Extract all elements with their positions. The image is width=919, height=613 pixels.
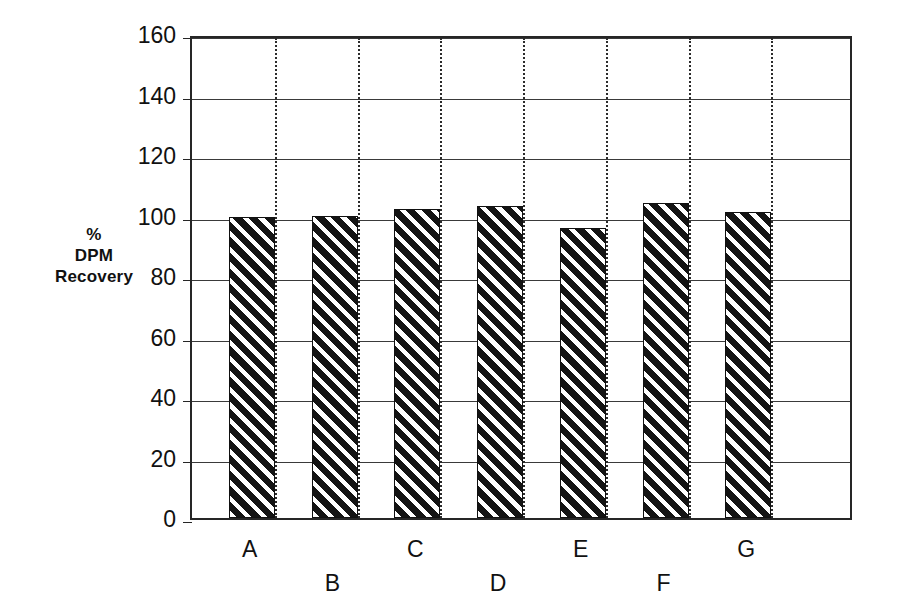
vertical-gridline — [440, 38, 442, 518]
plot-area — [190, 36, 852, 520]
x-axis-tick-label-c: C — [407, 538, 424, 561]
horizontal-gridline — [192, 159, 850, 160]
horizontal-gridline — [192, 99, 850, 100]
y-axis-tick-mark — [183, 462, 192, 463]
bar-d — [477, 206, 523, 518]
x-axis-tick-label-e: E — [573, 538, 588, 561]
y-axis-tick-mark — [183, 341, 192, 342]
x-axis-tick-label-a: A — [242, 538, 257, 561]
x-axis-tick-label-g: G — [737, 538, 755, 561]
y-axis-tick-label: 0 — [0, 508, 184, 531]
vertical-gridline — [358, 38, 360, 518]
y-axis-tick-mark — [183, 280, 192, 281]
bar-b — [312, 216, 358, 519]
bar-f — [643, 203, 689, 518]
horizontal-gridline — [192, 38, 850, 39]
bar-chart-figure: % DPM Recovery 020406080100120140160 ABC… — [0, 0, 919, 613]
x-axis-tick-labels: ABCDEFG — [190, 520, 852, 610]
y-axis-tick-label: 20 — [0, 448, 184, 471]
y-axis-tick-mark — [183, 159, 192, 160]
vertical-gridline — [689, 38, 691, 518]
y-axis-tick-mark — [183, 220, 192, 221]
y-axis-tick-label: 40 — [0, 387, 184, 410]
y-axis-tick-label: 60 — [0, 327, 184, 350]
x-axis-tick-label-d: D — [490, 572, 507, 595]
vertical-gridline — [523, 38, 525, 518]
vertical-gridline — [771, 38, 773, 518]
y-axis-tick-label: 80 — [0, 266, 184, 289]
y-axis-tick-label: 100 — [0, 206, 184, 229]
y-axis-tick-labels: 020406080100120140160 — [0, 0, 184, 613]
bar-a — [229, 217, 275, 518]
y-axis-tick-mark — [183, 99, 192, 100]
vertical-gridline — [606, 38, 608, 518]
y-axis-tick-label: 120 — [0, 145, 184, 168]
y-axis-tick-label: 140 — [0, 85, 184, 108]
y-axis-tick-label: 160 — [0, 24, 184, 47]
x-axis-tick-label-f: F — [656, 572, 670, 595]
vertical-gridline — [275, 38, 277, 518]
x-axis-tick-label-b: B — [325, 572, 340, 595]
bar-g — [725, 212, 771, 518]
y-axis-tick-mark — [183, 38, 192, 39]
bar-c — [394, 209, 440, 518]
bar-e — [560, 228, 606, 518]
y-axis-tick-mark — [183, 401, 192, 402]
